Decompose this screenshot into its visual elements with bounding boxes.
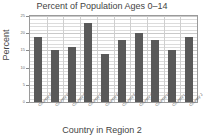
y-tick-label: 15	[21, 48, 25, 52]
bar	[118, 40, 126, 102]
bar	[84, 23, 92, 102]
bar	[185, 37, 193, 102]
plot-area	[29, 15, 198, 103]
y-tick-label: 20	[21, 31, 25, 35]
chart-title: Percent of Population Ages 0–14	[0, 1, 204, 12]
x-axis-tick-labels: Country ACountry BCountry CCountry DCoun…	[29, 104, 198, 124]
x-axis-title: Country in Region 2	[0, 125, 204, 136]
y-tick-label: 0	[23, 100, 25, 104]
y-tick-label: 5	[23, 83, 25, 87]
bar	[34, 37, 42, 102]
y-tick-label: 25	[21, 14, 25, 18]
y-tick-label: 10	[21, 66, 25, 70]
bars-layer	[30, 16, 197, 102]
bar	[135, 33, 143, 102]
y-axis-ticks: 0510152025	[0, 15, 29, 103]
bar-chart: Percent of Population Ages 0–14 Percent …	[0, 0, 204, 139]
